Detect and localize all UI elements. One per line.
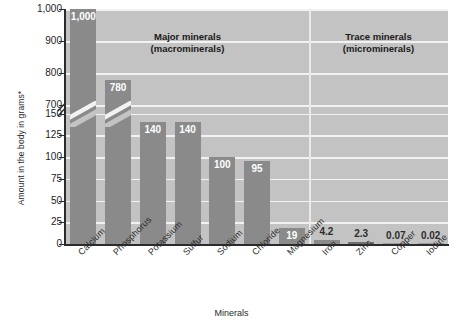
bar-value-label: 1,000 xyxy=(66,12,104,22)
y-axis-tick-mark xyxy=(59,41,64,42)
y-axis-tick-mark xyxy=(59,9,64,10)
y-axis-tick-label: 50 xyxy=(18,196,62,206)
bar-chart-figure: Amount in the body in grams* 02550751001… xyxy=(0,0,463,324)
x-axis-title: Minerals xyxy=(0,308,463,318)
y-axis-tick-mark xyxy=(59,179,64,180)
bar-value-label: 140 xyxy=(167,125,208,135)
y-axis-tick-label: 125 xyxy=(18,130,62,140)
bar-value-label: 780 xyxy=(98,83,139,93)
group-header-major-minerals: Major minerals(macrominerals) xyxy=(108,31,268,55)
y-axis-tick-mark xyxy=(59,201,64,202)
y-axis-tick-mark xyxy=(59,73,64,74)
bar-axis-break-mark xyxy=(70,101,96,127)
group-header-line-1: Trace minerals xyxy=(299,31,459,43)
y-axis-tick-label: 900 xyxy=(18,36,62,46)
gridline xyxy=(66,73,448,75)
gridline xyxy=(66,9,448,11)
y-axis-tick-label: 100 xyxy=(18,152,62,162)
group-header-line-2: (macrominerals) xyxy=(108,43,268,55)
y-axis-tick-label: 1,000 xyxy=(18,4,62,14)
group-header-line-2: (microminerals) xyxy=(299,43,459,55)
group-header-line-1: Major minerals xyxy=(108,31,268,43)
y-axis-tick-mark xyxy=(59,244,64,245)
bar-axis-break-mark xyxy=(105,101,131,127)
y-axis-tick-label: 75 xyxy=(18,174,62,184)
y-axis-tick-mark xyxy=(59,114,64,115)
group-header-trace-minerals: Trace minerals(microminerals) xyxy=(299,31,459,55)
y-axis-tick-label: 25 xyxy=(18,217,62,227)
y-axis-tick-label: 800 xyxy=(18,68,62,78)
y-axis-tick-mark xyxy=(59,105,64,106)
y-axis-tick-mark xyxy=(59,135,64,136)
x-axis-tick-labels: CalciumPhosphorusPotassiumSulfurSodiumCh… xyxy=(0,246,463,304)
bar-value-label: 95 xyxy=(237,164,278,174)
y-axis-tick-mark xyxy=(59,222,64,223)
y-axis-tick-mark xyxy=(59,157,64,158)
